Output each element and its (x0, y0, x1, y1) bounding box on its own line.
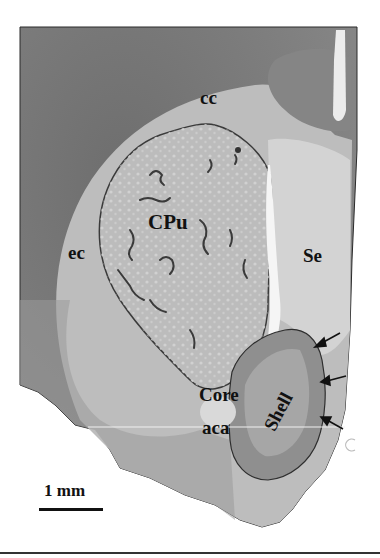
bottom-divider (0, 552, 380, 554)
figure: cc ec CPu Se Core aca Shell 1 mm (0, 0, 380, 558)
scale-bar (39, 508, 103, 511)
label-ec: ec (68, 243, 85, 262)
brain-section-image (0, 0, 380, 558)
label-cpu: CPu (148, 212, 188, 233)
label-cc: cc (200, 88, 217, 107)
label-core: Core (199, 385, 239, 404)
label-se: Se (303, 246, 322, 265)
scale-bar-label: 1 mm (44, 481, 85, 501)
label-aca: aca (202, 418, 229, 437)
